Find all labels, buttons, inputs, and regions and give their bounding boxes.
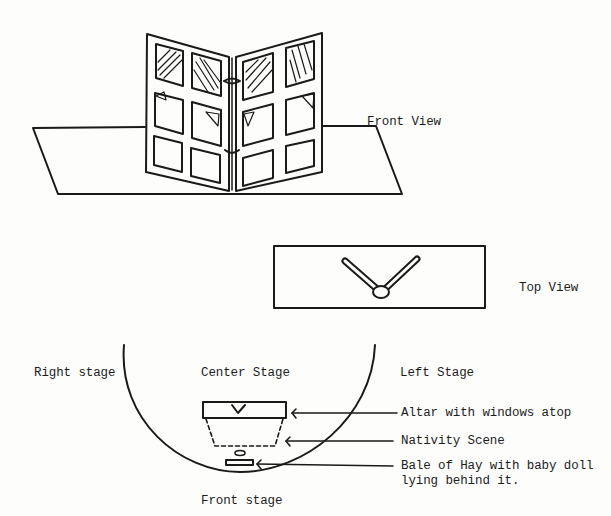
top-view-label: Top View bbox=[519, 281, 578, 296]
stage-diagram-page: Front View Top View Right stage Center S… bbox=[0, 0, 611, 516]
callout-hay-bale-line2: lying behind it. bbox=[401, 474, 519, 489]
left-stage-label: Left Stage bbox=[400, 366, 474, 381]
hay-bale-icon bbox=[226, 451, 253, 466]
callout-hay-bale-line1: Bale of Hay with baby doll bbox=[401, 459, 593, 474]
left-window-panel-icon bbox=[146, 34, 229, 191]
callout-nativity-scene: Nativity Scene bbox=[401, 434, 505, 449]
callout-altar: Altar with windows atop bbox=[401, 406, 571, 421]
nativity-scene-outline bbox=[206, 419, 283, 446]
center-stage-label: Center Stage bbox=[201, 366, 290, 381]
stage-arc bbox=[124, 345, 375, 472]
altar-icon bbox=[203, 402, 286, 418]
front-view-label: Front View bbox=[367, 115, 441, 130]
front-stage-label: Front stage bbox=[201, 494, 282, 509]
diagram-drawing bbox=[0, 0, 611, 516]
right-window-panel-icon bbox=[236, 33, 322, 191]
top-view-box bbox=[274, 246, 485, 308]
right-stage-label: Right stage bbox=[34, 366, 115, 381]
